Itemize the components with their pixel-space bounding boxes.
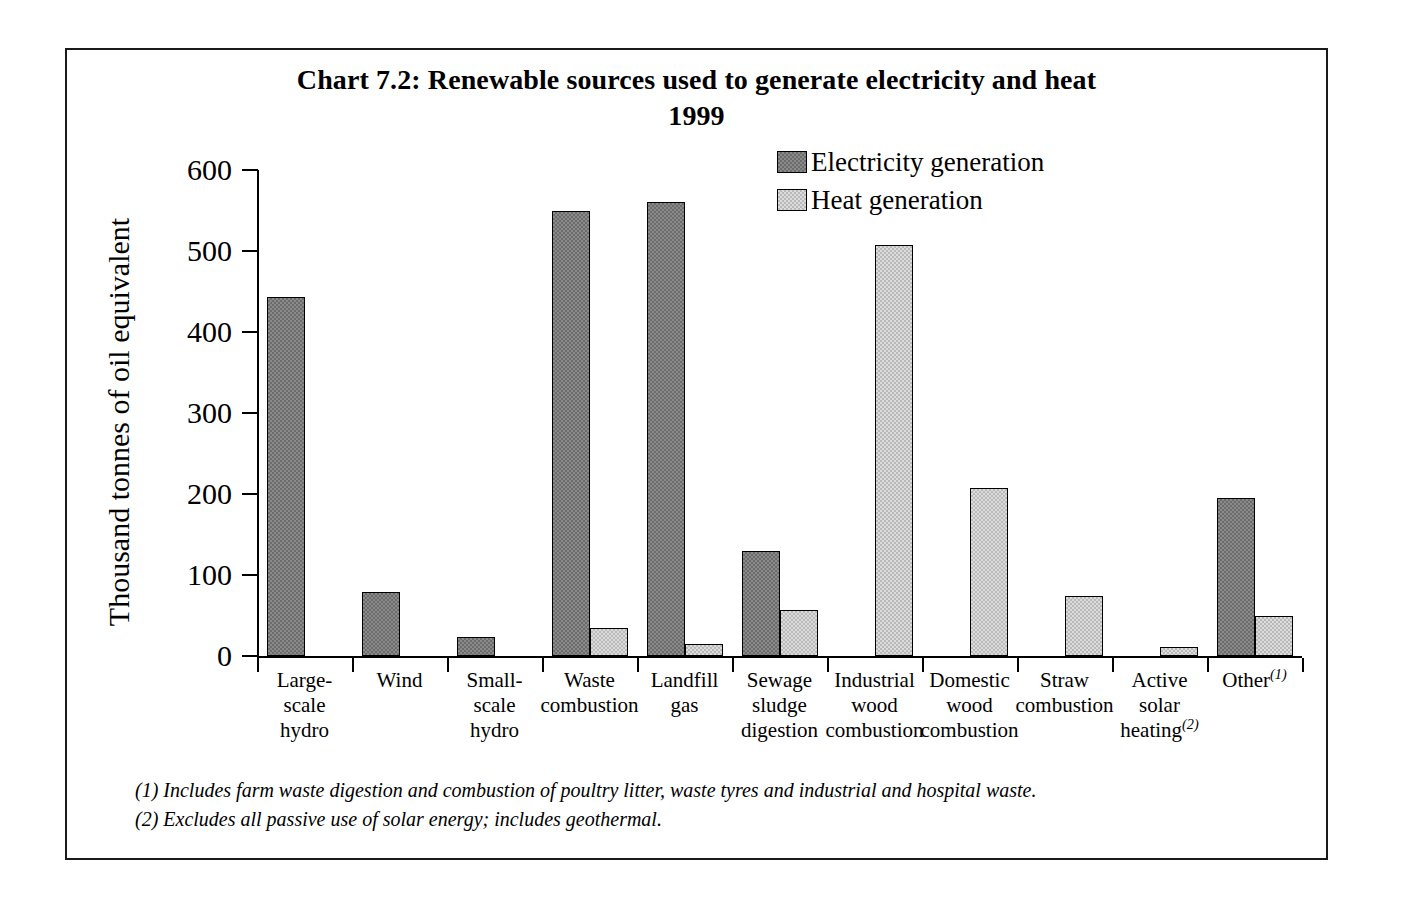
y-axis-tick <box>242 331 258 333</box>
x-axis-label-line: hydro <box>224 718 386 743</box>
x-axis-label-line: scale <box>224 693 386 718</box>
bar-electricity <box>362 592 400 656</box>
bar-heat <box>875 245 913 656</box>
y-axis-line <box>257 170 259 658</box>
y-axis-tick <box>242 574 258 576</box>
bar-heat <box>970 488 1008 656</box>
footnote-1: (1) Includes farm waste digestion and co… <box>135 776 1036 805</box>
bar-electricity <box>1217 498 1255 656</box>
footnote-marker: (2) <box>1182 716 1199 732</box>
y-axis-tick-label: 600 <box>127 155 232 185</box>
bar-electricity <box>267 297 305 656</box>
y-axis-tick-label: 200 <box>127 479 232 509</box>
y-axis-tick-label: 500 <box>127 236 232 266</box>
x-axis-label-line: Other(1) <box>1174 668 1336 693</box>
x-axis-line <box>257 656 1302 658</box>
bar-heat <box>590 628 628 656</box>
footnote-marker: (1) <box>1270 666 1287 682</box>
chart-frame: Chart 7.2: Renewable sources used to gen… <box>65 48 1328 860</box>
footnote-2: (2) Excludes all passive use of solar en… <box>135 805 1036 834</box>
y-axis-tick-label: 0 <box>127 641 232 671</box>
y-axis-tick-label: 100 <box>127 560 232 590</box>
bar-heat <box>780 610 818 656</box>
bar-heat <box>1255 616 1293 657</box>
x-axis-label-line: solar <box>1079 693 1241 718</box>
legend-swatch-electricity-icon <box>777 151 807 173</box>
y-axis-tick <box>242 250 258 252</box>
bar-electricity <box>742 551 780 656</box>
x-axis-label-11: Other(1) <box>1174 668 1336 693</box>
bar-electricity <box>457 637 495 656</box>
y-axis-tick <box>242 655 258 657</box>
bar-heat <box>685 644 723 656</box>
legend-item-electricity: Electricity generation <box>777 143 1044 181</box>
bar-electricity <box>647 202 685 656</box>
footnotes: (1) Includes farm waste digestion and co… <box>135 776 1036 834</box>
legend-swatch-heat-icon <box>777 189 807 211</box>
legend-label-heat: Heat generation <box>811 187 983 214</box>
bar-heat <box>1160 647 1198 656</box>
bar-heat <box>1065 596 1103 656</box>
x-axis-label-line: combustion <box>889 718 1051 743</box>
y-axis-tick <box>242 169 258 171</box>
bar-electricity <box>552 211 590 656</box>
x-axis-label-line: hydro <box>414 718 576 743</box>
y-axis-tick-label: 400 <box>127 317 232 347</box>
chart-legend: Electricity generation Heat generation <box>777 143 1044 219</box>
plot-area: Thousand tonnes of oil equivalent 010020… <box>67 50 1326 858</box>
x-axis-label-line: heating(2) <box>1079 718 1241 743</box>
y-axis-tick-label: 300 <box>127 398 232 428</box>
y-axis-tick <box>242 493 258 495</box>
legend-item-heat: Heat generation <box>777 181 1044 219</box>
y-axis-tick <box>242 412 258 414</box>
legend-label-electricity: Electricity generation <box>811 149 1044 176</box>
